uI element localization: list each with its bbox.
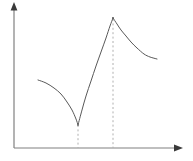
peak-maximum-point	[112, 17, 114, 19]
curve-plot-svg	[0, 0, 193, 161]
cusp-minimum-point	[77, 124, 78, 125]
figure-container	[0, 0, 193, 161]
plot-background	[0, 0, 193, 161]
